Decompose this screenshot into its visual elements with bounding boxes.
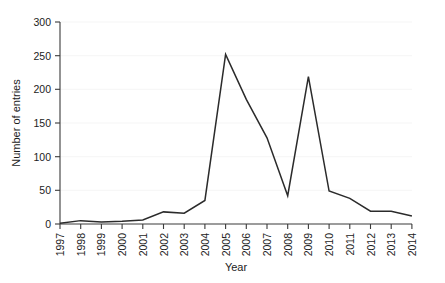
x-axis-title: Year [225, 261, 248, 273]
x-tick-label-2005: 2005 [220, 233, 232, 257]
x-tick-label-2013: 2013 [385, 233, 397, 257]
x-tick-label-2003: 2003 [178, 233, 190, 257]
x-tick-label-2008: 2008 [282, 233, 294, 257]
y-tick-label-50: 50 [39, 184, 51, 196]
x-tick-label-2001: 2001 [137, 233, 149, 257]
x-tick-label-2004: 2004 [199, 233, 211, 257]
x-tick-label-1997: 1997 [54, 233, 66, 257]
y-axis-title: Number of entries [10, 79, 22, 167]
x-tick-label-1998: 1998 [75, 233, 87, 257]
x-tick-label-2012: 2012 [365, 233, 377, 257]
x-tick-label-2014: 2014 [406, 233, 418, 257]
y-tick-label-300: 300 [33, 16, 51, 28]
y-tick-label-250: 250 [33, 50, 51, 62]
x-tick-label-2000: 2000 [116, 233, 128, 257]
x-tick-label-2010: 2010 [323, 233, 335, 257]
y-tick-label-100: 100 [33, 151, 51, 163]
x-tick-label-2007: 2007 [261, 233, 273, 257]
x-tick-label-1999: 1999 [95, 233, 107, 257]
x-tick-label-2002: 2002 [158, 233, 170, 257]
line-chart-plot: 300 250 200 150 100 50 0 [0, 0, 445, 283]
x-tick-label-2011: 2011 [344, 233, 356, 256]
y-tick-label-0: 0 [45, 218, 51, 230]
y-tick-label-150: 150 [33, 117, 51, 129]
chart-figure: 300 250 200 150 100 50 0 [0, 0, 445, 283]
x-tick-label-2009: 2009 [302, 233, 314, 257]
x-tick-label-2006: 2006 [240, 233, 252, 257]
y-tick-label-200: 200 [33, 83, 51, 95]
